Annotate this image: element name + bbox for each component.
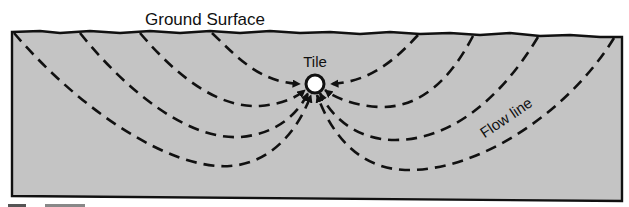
tile-drain <box>306 75 324 93</box>
tile-label: Tile <box>303 53 327 70</box>
tile-drainage-diagram: Ground Surface Tile Flow line <box>0 0 629 207</box>
caption-fragment-2 <box>45 204 85 207</box>
ground-surface-label: Ground Surface <box>145 10 265 29</box>
caption-fragment <box>8 204 26 207</box>
